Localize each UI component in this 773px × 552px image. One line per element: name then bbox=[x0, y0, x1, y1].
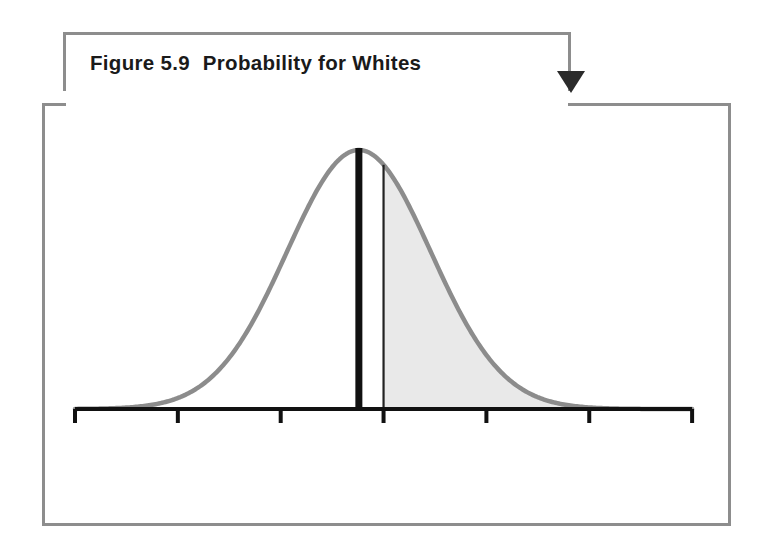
shaded-area bbox=[384, 165, 693, 409]
figure-title-box: Figure 5.9Probability for Whites bbox=[63, 32, 571, 91]
figure-title-text: Probability for Whites bbox=[203, 51, 421, 74]
figure-number-label: Figure 5.9 bbox=[90, 51, 190, 74]
x-axis-ticks bbox=[75, 409, 692, 423]
figure-root: Figure 5.9Probability for Whites 0510152… bbox=[0, 0, 773, 552]
page-title: Figure 5.9Probability for Whites bbox=[90, 51, 421, 75]
down-triangle-arrow-icon bbox=[557, 71, 585, 93]
